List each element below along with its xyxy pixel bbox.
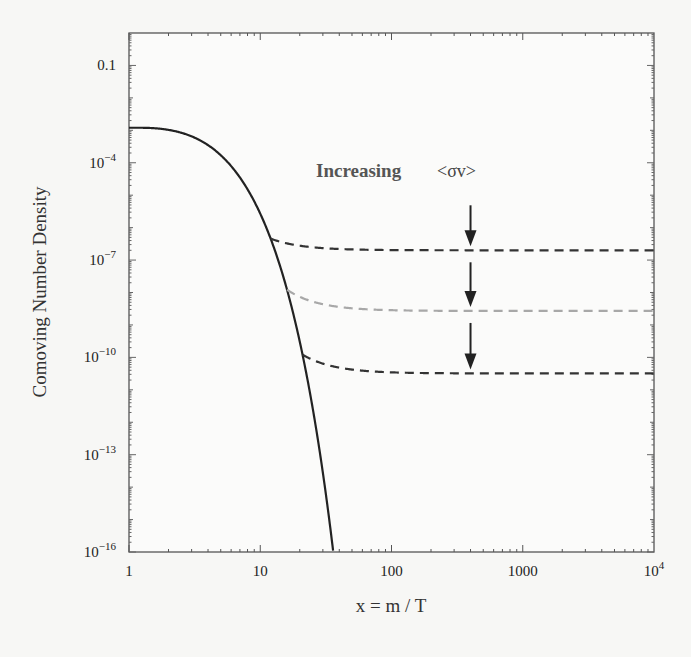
x-tick-label: 100 <box>380 563 403 579</box>
x-axis-label: x = m / T <box>356 595 427 616</box>
y-tick-label: 0.1 <box>97 57 116 73</box>
x-tick-labels: 1101001000104 <box>125 559 665 579</box>
y-tick-labels: 0.110−410−710−1010−1310−16 <box>84 57 117 560</box>
y-tick-label: 10−10 <box>84 345 117 365</box>
y-tick-label: 10−13 <box>84 443 117 463</box>
freeze-out-chart: 1101001000104 0.110−410−710−1010−1310−16… <box>0 0 691 657</box>
x-tick-label: 1 <box>125 563 133 579</box>
y-tick-label: 10−16 <box>84 540 117 560</box>
x-tick-label: 104 <box>644 559 665 579</box>
annotation-increasing: Increasing <box>316 160 402 181</box>
x-tick-label: 1000 <box>508 563 538 579</box>
x-tick-label: 10 <box>253 563 268 579</box>
y-tick-label: 10−4 <box>89 151 116 171</box>
y-axis-label: Comoving Number Density <box>29 186 50 398</box>
plot-frame <box>129 33 654 552</box>
y-tick-label: 10−7 <box>89 248 116 268</box>
annotation-sigma-v: <σv> <box>437 161 476 181</box>
